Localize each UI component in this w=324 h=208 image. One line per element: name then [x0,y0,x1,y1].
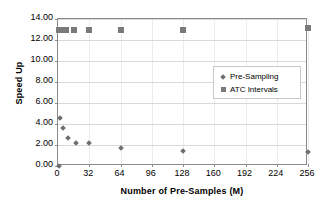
x-gridline [308,19,309,164]
y-tick-label: 14.00 [7,13,53,22]
legend-item: Pre-Sampling [218,70,296,83]
x-tick-mark [246,164,247,167]
y-tick-mark [55,19,58,20]
y-tick-label: 0.00 [7,160,53,169]
data-point-square [118,27,124,33]
x-tick-mark [308,164,309,167]
y-gridline [58,145,306,146]
diamond-marker-icon [218,75,228,79]
data-point-square [71,27,77,33]
y-tick-mark [55,40,58,41]
y-gridline [58,40,306,41]
legend-item: ATC Intervals [218,83,296,96]
data-point-diamond [118,145,124,151]
data-point-diamond [180,148,186,154]
y-tick-mark [55,82,58,83]
y-gridline [58,19,306,20]
y-tick-label: 10.00 [7,55,53,64]
x-tick-mark [277,164,278,167]
y-tick-label: 8.00 [7,76,53,85]
data-point-diamond [60,125,66,131]
x-tick-mark [152,164,153,167]
x-tick-mark [214,164,215,167]
legend-label: ATC Intervals [228,85,278,94]
x-tick-mark [89,164,90,167]
x-tick-mark [183,164,184,167]
y-tick-mark [55,103,58,104]
x-tick-mark [121,164,122,167]
y-gridline [58,124,306,125]
data-point-square [305,25,311,31]
square-marker-icon [218,87,228,92]
data-point-diamond [305,150,311,156]
speed-up-scatter-chart: Speed Up 0.002.004.006.008.0010.0012.001… [0,0,324,208]
y-tick-mark [55,61,58,62]
data-point-diamond [57,115,63,121]
y-tick-label: 4.00 [7,118,53,127]
y-tick-label: 12.00 [7,34,53,43]
legend-label: Pre-Sampling [228,72,278,81]
y-tick-mark [55,145,58,146]
data-point-square [86,27,92,33]
data-point-square [63,27,69,33]
x-tick-label: 256 [287,169,324,178]
x-axis-title: Number of Pre-Samples (M) [57,186,307,196]
y-tick-label: 6.00 [7,97,53,106]
y-gridline [58,103,306,104]
data-point-square [180,27,186,33]
y-gridline [58,61,306,62]
y-tick-label: 2.00 [7,139,53,148]
y-tick-mark [55,124,58,125]
chart-legend: Pre-SamplingATC Intervals [213,66,301,99]
data-point-diamond [65,135,71,141]
